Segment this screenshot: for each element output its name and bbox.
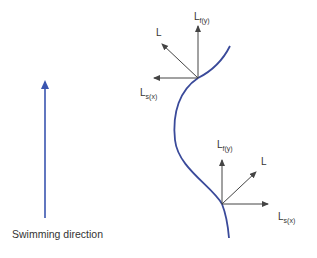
lower-side-label: Ls(x) [278,211,295,225]
swimming-direction-caption: Swimming direction [12,228,103,240]
lower-lift-label: L [261,156,267,167]
upper-side-label: Ls(x) [140,87,157,101]
upper-lift-vector [162,44,198,78]
upper-lift-label: L [156,27,162,38]
swimming-force-diagram: Lf(y) L Ls(x) Lf(y) L Ls(x) [0,0,317,258]
lower-forward-label: Lf(y) [217,139,233,153]
upper-forward-label: Lf(y) [194,11,210,25]
lower-lift-vector [222,172,256,204]
